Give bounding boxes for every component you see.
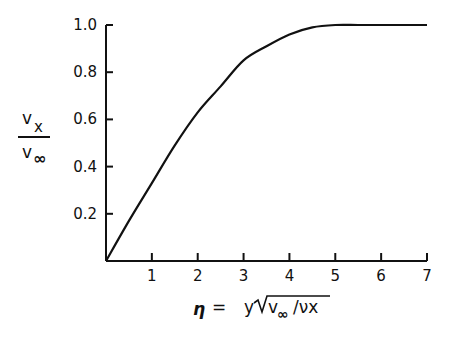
x-tick-label: 4 xyxy=(285,267,295,285)
y-label-denominator: v xyxy=(22,142,32,162)
x-ticks: 1234567 xyxy=(147,253,432,285)
x-tick-label: 3 xyxy=(239,267,249,285)
axes xyxy=(106,25,427,261)
y-label-denominator-sub: ∞ xyxy=(33,149,46,168)
y-label-numerator-sub: x xyxy=(34,118,43,136)
chart: 0.20.40.60.81.0 1234567 v x v ∞ η = y v … xyxy=(0,0,451,339)
x-tick-label: 5 xyxy=(331,267,341,285)
x-tick-label: 6 xyxy=(376,267,386,285)
x-label-y: y xyxy=(244,297,254,317)
y-label-numerator: v xyxy=(22,108,32,128)
y-axis-label: v x v ∞ xyxy=(18,108,50,168)
sqrt-sign xyxy=(254,296,330,312)
x-label-equals: = xyxy=(212,297,226,317)
x-label-eta: η xyxy=(193,299,205,319)
x-label-rest: /νx xyxy=(293,297,318,317)
x-label-inf: ∞ xyxy=(277,306,289,322)
y-ticks: 0.20.40.60.81.0 xyxy=(73,16,113,223)
y-tick-label: 0.8 xyxy=(73,63,97,81)
x-tick-label: 2 xyxy=(193,267,203,285)
y-tick-label: 0.4 xyxy=(73,158,97,176)
y-tick-label: 0.2 xyxy=(73,205,97,223)
x-tick-label: 7 xyxy=(422,267,432,285)
velocity-curve xyxy=(106,25,427,261)
x-tick-label: 1 xyxy=(147,267,157,285)
y-tick-label: 1.0 xyxy=(73,16,97,34)
x-axis-label: η = y v ∞ /νx xyxy=(193,296,330,322)
y-tick-label: 0.6 xyxy=(73,110,97,128)
